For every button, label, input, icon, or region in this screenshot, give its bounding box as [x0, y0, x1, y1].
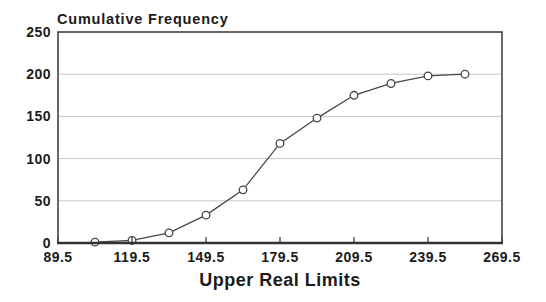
y-tick-label-250: 250: [26, 24, 51, 40]
y-tick-label-50: 50: [34, 193, 51, 209]
y-tick-label-200: 200: [26, 66, 51, 82]
data-point-marker: [424, 72, 432, 80]
y-tick-label-100: 100: [26, 151, 51, 167]
x-tick-label-119.5: 119.5: [114, 249, 151, 265]
data-point-marker: [202, 211, 210, 219]
data-point-marker: [165, 229, 173, 237]
x-axis-label: Upper Real Limits: [58, 270, 502, 291]
data-point-marker: [461, 70, 469, 78]
plot-frame: [58, 32, 502, 243]
cumulative-frequency-ogive-figure: Cumulative Frequency 05010015020025089.5…: [0, 0, 546, 302]
x-tick-label-179.5: 179.5: [261, 249, 299, 265]
y-tick-label-150: 150: [26, 108, 51, 124]
x-tick-label-89.5: 89.5: [43, 249, 72, 265]
data-point-marker: [239, 186, 247, 194]
plot-area: 05010015020025089.5119.5149.5179.5209.52…: [0, 0, 546, 302]
data-point-marker: [276, 140, 284, 148]
data-point-marker: [387, 80, 395, 88]
x-tick-label-209.5: 209.5: [335, 249, 373, 265]
x-tick-label-239.5: 239.5: [409, 249, 447, 265]
x-tick-label-149.5: 149.5: [187, 249, 225, 265]
x-tick-label-269.5: 269.5: [483, 249, 521, 265]
data-point-marker: [313, 114, 321, 122]
data-point-marker: [350, 92, 358, 100]
